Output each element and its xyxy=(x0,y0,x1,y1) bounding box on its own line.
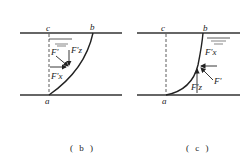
caption-b: ( b ) xyxy=(70,143,95,153)
force-fx-label: F'x xyxy=(50,71,62,81)
point-b-label: b xyxy=(203,23,208,33)
curved-surface xyxy=(49,33,93,95)
point-a-label: a xyxy=(162,96,167,106)
resultant-force-arrow xyxy=(56,56,68,66)
point-b-label: b xyxy=(90,22,95,32)
force-fz-label: F'z xyxy=(70,45,82,55)
point-c-label: c xyxy=(46,23,50,33)
force-f-label: F' xyxy=(213,76,222,86)
point-a-label: a xyxy=(45,96,50,106)
caption-c: ( c ) xyxy=(186,143,211,153)
panel-c: c b a F'x F' F'z ( c ) xyxy=(137,23,240,153)
force-fx-label: F'x xyxy=(204,47,216,57)
panel-b: c b a F' F'z F'x ( b ) xyxy=(20,22,122,153)
resultant-force-arrow xyxy=(201,68,213,80)
diagram-canvas: c b a F' F'z F'x ( b ) c b a F'x F' F'z … xyxy=(0,0,251,164)
force-fz-label: F'z xyxy=(190,82,202,92)
point-c-label: c xyxy=(161,23,165,33)
force-f-label: F' xyxy=(50,47,59,57)
